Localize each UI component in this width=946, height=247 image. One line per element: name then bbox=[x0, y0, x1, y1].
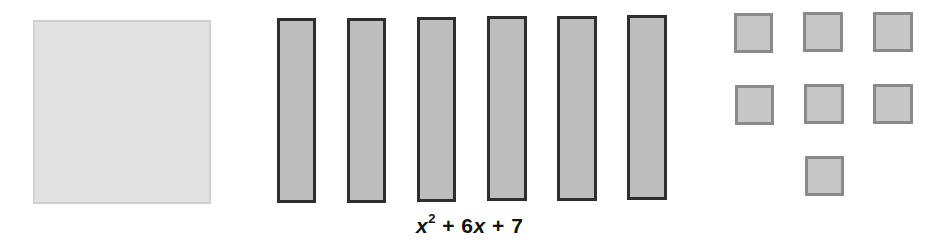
x-tile bbox=[417, 17, 456, 202]
expression-label: x2 + 6x + 7 bbox=[416, 213, 523, 238]
unit-tile bbox=[873, 12, 913, 52]
plus-operator: + bbox=[486, 214, 511, 237]
x-tile bbox=[347, 18, 386, 203]
unit-tile bbox=[804, 84, 844, 124]
constant: 7 bbox=[511, 214, 523, 237]
unit-tile bbox=[803, 12, 843, 52]
unit-tile bbox=[734, 13, 773, 53]
unit-tile bbox=[805, 156, 844, 196]
variable-x: x bbox=[416, 214, 428, 237]
x-tile bbox=[557, 16, 597, 201]
plus-operator: + bbox=[436, 214, 461, 237]
x-squared-tile bbox=[33, 20, 211, 204]
x-tile bbox=[277, 18, 316, 203]
unit-tile bbox=[873, 84, 913, 124]
unit-tile bbox=[735, 85, 774, 125]
variable-x: x bbox=[474, 214, 486, 237]
x-tile bbox=[487, 16, 527, 201]
coefficient: 6 bbox=[461, 214, 473, 237]
x-tile bbox=[627, 15, 667, 200]
exponent: 2 bbox=[428, 211, 436, 226]
